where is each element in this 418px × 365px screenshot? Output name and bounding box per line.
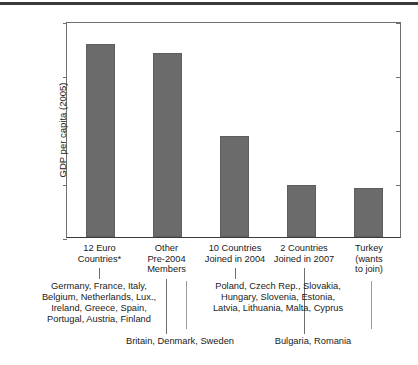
leader-line-joined2004: [235, 268, 236, 279]
x-category-label-1: Other Pre-2004 Members: [133, 243, 200, 275]
bar-0: [86, 44, 115, 237]
note-pre2004: Britain, Denmark, Sweden: [110, 336, 250, 347]
note-euro12: Germany, France, Italy, Belgium, Netherl…: [16, 281, 182, 325]
y-tick-mark-right: [396, 185, 401, 186]
bar-2: [220, 136, 249, 237]
x-category-label-0: 12 Euro Countries*: [66, 243, 133, 264]
y-tick-mark: [63, 239, 68, 240]
x-category-label-2: 10 Countries Joined in 2004: [197, 243, 273, 264]
note-joined2007: Bulgaria, Romania: [253, 336, 373, 347]
top-rule-divider: [0, 2, 418, 5]
y-tick-mark-right: [396, 131, 401, 132]
leader-line-euro12: [99, 268, 100, 279]
x-category-label-3: 2 Countries Joined in 2007: [266, 243, 342, 264]
note-divider-left: [186, 281, 187, 329]
plot-area: GDP per capita (2005) $40,000 $30,000 20…: [66, 22, 401, 238]
y-axis-title: GDP per capita (2005): [57, 83, 68, 178]
y-tick-mark: [63, 23, 68, 24]
note-divider-right: [371, 281, 372, 329]
bar-3: [287, 185, 316, 237]
bar-1: [153, 53, 182, 237]
x-category-label-4: Turkey (wants to join): [336, 243, 402, 275]
y-tick-mark-right: [396, 23, 401, 24]
y-tick-mark: [63, 185, 68, 186]
y-tick-mark-right: [396, 77, 401, 78]
y-tick-mark: [63, 131, 68, 132]
gdp-per-capita-bar-chart: GDP per capita (2005) $40,000 $30,000 20…: [0, 0, 418, 365]
y-tick-mark: [63, 77, 68, 78]
bar-4: [354, 188, 383, 237]
note-joined2004: Poland, Czech Rep., Slovakia, Hungary, S…: [190, 281, 366, 314]
